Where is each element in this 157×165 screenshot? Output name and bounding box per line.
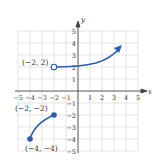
svg-text:4: 4	[124, 94, 128, 102]
closed-point-lower	[27, 136, 33, 142]
svg-text:1: 1	[72, 76, 76, 84]
y-tick-labels: 5 4 3 2 1 −1 −2 −3 −4 −5	[66, 28, 76, 156]
closed-point-upper	[51, 112, 57, 118]
svg-text:−3: −3	[37, 94, 47, 102]
svg-text:2: 2	[100, 94, 104, 102]
svg-text:1: 1	[88, 94, 92, 102]
svg-text:2: 2	[72, 64, 76, 72]
svg-text:−4: −4	[25, 94, 35, 102]
open-point	[51, 64, 57, 70]
label-open-point: (−2, 2)	[22, 58, 49, 67]
svg-text:−3: −3	[66, 124, 76, 132]
axes	[15, 21, 147, 153]
svg-text:5: 5	[72, 28, 76, 36]
graph: x y −5 −4 −3 −2 −1 1 2 3 4 5 5 4 3 2 1 −…	[0, 0, 157, 165]
label-closed-upper: (−2, −2)	[15, 104, 48, 113]
svg-text:−2: −2	[49, 94, 59, 102]
svg-text:3: 3	[112, 94, 116, 102]
x-tick-labels: −5 −4 −3 −2 −1 1 2 3 4 5	[13, 94, 140, 102]
svg-text:−5: −5	[66, 148, 76, 156]
label-closed-lower: (−4, −4)	[25, 144, 58, 153]
svg-text:−2: −2	[66, 112, 76, 120]
svg-text:5: 5	[136, 94, 140, 102]
svg-text:4: 4	[72, 40, 76, 48]
svg-text:−4: −4	[66, 136, 76, 144]
y-axis-label: y	[80, 16, 86, 24]
svg-text:−5: −5	[13, 94, 23, 102]
svg-text:−1: −1	[66, 100, 76, 108]
x-axis-label: x	[148, 88, 152, 96]
svg-text:3: 3	[72, 52, 76, 60]
upper-curve	[51, 45, 122, 70]
